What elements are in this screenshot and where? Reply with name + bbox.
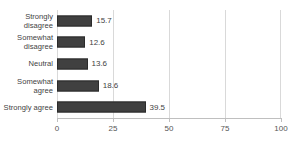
x-tick-mark-100 xyxy=(281,118,282,122)
bar-value-label: 18.6 xyxy=(103,81,119,91)
bar-row: Strongly disagree 15.7 xyxy=(0,10,298,32)
category-label: Somewhat disagree xyxy=(0,33,53,51)
bar-row: Somewhat disagree 12.6 xyxy=(0,32,298,54)
bar-value-label: 13.6 xyxy=(92,59,108,69)
x-tick-mark-25 xyxy=(113,118,114,122)
bar-group: 39.5 xyxy=(57,102,165,113)
bar-neutral[interactable] xyxy=(57,58,88,69)
bar-group: 18.6 xyxy=(57,80,118,91)
bar-value-label: 15.7 xyxy=(96,16,112,26)
bar-somewhat-disagree[interactable] xyxy=(57,37,85,48)
bar-group: 13.6 xyxy=(57,58,107,69)
x-tick-label-75: 75 xyxy=(221,124,230,134)
bar-value-label: 39.5 xyxy=(150,102,166,112)
bar-strongly-disagree[interactable] xyxy=(57,15,92,26)
bar-strongly-agree[interactable] xyxy=(57,102,146,113)
category-label: Strongly disagree xyxy=(0,12,53,30)
bar-somewhat-agree[interactable] xyxy=(57,80,99,91)
bar-row: Somewhat agree 18.6 xyxy=(0,75,298,97)
x-tick-mark-50 xyxy=(169,118,170,122)
x-tick-label-50: 50 xyxy=(165,124,174,134)
category-label: Strongly agree xyxy=(0,103,53,112)
bar-group: 12.6 xyxy=(57,37,105,48)
category-label: Neutral xyxy=(0,59,53,68)
category-label: Somewhat agree xyxy=(0,77,53,95)
bar-chart: 0 25 50 75 100 Strongly disagree 15.7 So… xyxy=(0,0,298,145)
x-tick-mark-75 xyxy=(225,118,226,122)
bar-group: 15.7 xyxy=(57,15,112,26)
x-tick-label-100: 100 xyxy=(274,124,287,134)
x-tick-label-25: 25 xyxy=(109,124,118,134)
x-tick-label-0: 0 xyxy=(55,124,59,134)
bar-row: Neutral 13.6 xyxy=(0,53,298,75)
bar-row: Strongly agree 39.5 xyxy=(0,96,298,118)
bar-value-label: 12.6 xyxy=(89,37,105,47)
x-tick-mark-0 xyxy=(57,118,58,122)
